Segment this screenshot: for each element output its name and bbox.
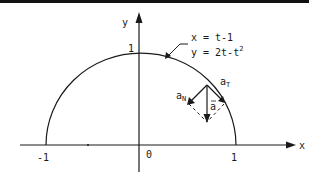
x-tick-1: 1 xyxy=(231,152,237,163)
acceleration-label: a xyxy=(210,101,216,112)
x-axis: x xyxy=(20,140,305,151)
x-tick-0: 0 xyxy=(146,149,152,160)
y-axis-label: y xyxy=(122,17,128,28)
vector-diagram: a aN aT xyxy=(176,76,231,123)
x-axis-label: x xyxy=(299,140,305,151)
top-border xyxy=(0,0,309,3)
equation-y-exponent: 2 xyxy=(239,45,243,53)
y-tick-1: 1 xyxy=(128,43,134,54)
diagram-canvas: x y -1 0 1 1 x = t-1 y = 2t-t2 a aN xyxy=(0,0,309,180)
x-axis-arrow-icon xyxy=(286,142,296,149)
equation-leader xyxy=(165,44,188,59)
normal-vector xyxy=(190,85,207,102)
normal-label: aN xyxy=(176,90,186,103)
tick-mark xyxy=(87,144,89,146)
x-tick-neg1: -1 xyxy=(37,152,49,163)
dashed-normal-completion xyxy=(189,104,207,122)
tangent-label: aT xyxy=(220,76,231,89)
equation-y-base: y = 2t-t xyxy=(191,47,239,58)
y-axis-arrow-icon xyxy=(136,12,143,23)
equation-x: x = t-1 xyxy=(191,32,233,43)
equation-y: y = 2t-t2 xyxy=(191,45,243,58)
y-axis: y xyxy=(122,12,143,172)
